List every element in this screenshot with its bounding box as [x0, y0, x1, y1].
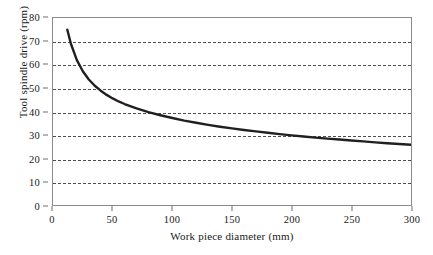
chart-figure: 01020304050607080 Tool spindle drive (rp…	[0, 0, 433, 255]
y-tick-label: 30	[29, 130, 40, 141]
y-tick-mark	[43, 17, 48, 18]
x-axis-title: Work piece diameter (mm)	[52, 230, 412, 242]
y-tick-mark	[43, 158, 48, 159]
y-tick-label: 80	[29, 12, 40, 23]
y-tick-label: 40	[29, 106, 40, 117]
y-tick-mark	[43, 111, 48, 112]
x-tick-mark	[52, 206, 53, 211]
x-tick-mark	[112, 206, 113, 211]
y-tick-mark	[43, 206, 48, 207]
plot-area	[52, 17, 412, 206]
y-axis-title: Tool spindle drive (rpm)	[17, 0, 29, 132]
y-tick-mark	[43, 40, 48, 41]
y-tick-label: 10	[29, 177, 40, 188]
y-tick-mark	[43, 64, 48, 65]
y-tick-label: 50	[29, 82, 40, 93]
x-tick-label: 300	[404, 214, 420, 225]
y-tick-mark	[43, 182, 48, 183]
y-tick-mark	[43, 135, 48, 136]
x-tick-label: 100	[164, 214, 180, 225]
x-tick-mark	[172, 206, 173, 211]
y-tick-label: 60	[29, 59, 40, 70]
series-line-tool-spindle-drive	[53, 18, 411, 205]
x-tick-label: 0	[49, 214, 54, 225]
x-tick-label: 50	[107, 214, 118, 225]
y-tick-label: 20	[29, 153, 40, 164]
x-tick-label: 200	[284, 214, 300, 225]
x-tick-mark	[232, 206, 233, 211]
x-tick-mark	[412, 206, 413, 211]
y-tick-mark	[43, 87, 48, 88]
x-tick-label: 250	[344, 214, 360, 225]
x-axis-ticks: 050100150200250300	[52, 206, 412, 228]
x-tick-label: 150	[224, 214, 240, 225]
y-tick-label: 70	[29, 35, 40, 46]
x-tick-mark	[352, 206, 353, 211]
y-tick-label: 0	[35, 201, 40, 212]
x-tick-mark	[292, 206, 293, 211]
